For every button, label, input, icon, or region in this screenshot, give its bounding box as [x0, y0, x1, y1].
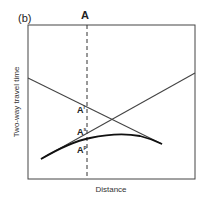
label-a-i: Ai [77, 104, 85, 115]
descending-line [28, 78, 162, 144]
label-a-p: Ap [77, 144, 87, 155]
curve [41, 134, 162, 159]
label-a-s: As [77, 126, 86, 137]
x-axis-label: Distance [95, 185, 126, 194]
diagram-canvas [0, 0, 205, 200]
y-axis-label: Two-way travel time [12, 67, 21, 138]
plot-frame [28, 25, 195, 179]
